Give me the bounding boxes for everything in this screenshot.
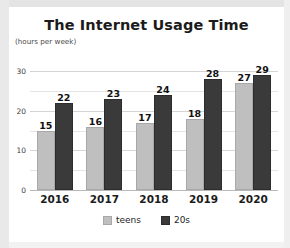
plot-area: 0102030 15221623172418282729 xyxy=(30,71,278,190)
bar-value-label: 16 xyxy=(89,117,102,127)
x-axis-labels: 20162017201820192020 xyxy=(30,193,278,205)
legend-label: teens xyxy=(116,215,141,225)
x-axis-label-2019: 2019 xyxy=(183,193,225,205)
legend-item-20s[interactable]: 20s xyxy=(161,215,190,225)
bar-20s-2016[interactable]: 22 xyxy=(55,103,73,190)
bar-chart: The Internet Usage Time (hours per week)… xyxy=(9,7,284,242)
bar-value-label: 15 xyxy=(39,121,52,131)
chart-page: The Internet Usage Time (hours per week)… xyxy=(0,0,290,248)
bar-slot: 15 xyxy=(37,71,55,190)
legend-swatch-20s xyxy=(161,216,170,225)
bar-value-label: 23 xyxy=(107,89,120,99)
axis-baseline: 0 xyxy=(30,190,278,191)
page-edge-top xyxy=(9,0,284,7)
bar-20s-2018[interactable]: 24 xyxy=(154,95,172,190)
bar-group: 1623 xyxy=(83,71,125,190)
y-axis-tick-label: 20 xyxy=(16,106,26,115)
bar-group: 1724 xyxy=(133,71,175,190)
legend-label: 20s xyxy=(174,215,190,225)
bar-slot: 28 xyxy=(204,71,222,190)
bar-teens-2018[interactable]: 17 xyxy=(136,123,154,190)
bar-value-label: 22 xyxy=(57,93,70,103)
bar-slot: 23 xyxy=(104,71,122,190)
bar-group: 1828 xyxy=(183,71,225,190)
x-axis-label-2017: 2017 xyxy=(83,193,125,205)
bar-group: 2729 xyxy=(232,71,274,190)
bar-group: 1522 xyxy=(34,71,76,190)
bar-teens-2019[interactable]: 18 xyxy=(186,119,204,190)
chart-title: The Internet Usage Time xyxy=(9,17,284,33)
bar-value-label: 28 xyxy=(206,69,219,79)
bar-20s-2017[interactable]: 23 xyxy=(104,99,122,190)
bar-value-label: 24 xyxy=(156,85,169,95)
bar-teens-2020[interactable]: 27 xyxy=(235,83,253,190)
bar-slot: 17 xyxy=(136,71,154,190)
legend-item-teens[interactable]: teens xyxy=(103,215,141,225)
x-axis-label-2016: 2016 xyxy=(34,193,76,205)
bar-teens-2016[interactable]: 15 xyxy=(37,131,55,191)
bar-teens-2017[interactable]: 16 xyxy=(86,127,104,190)
x-axis-label-2018: 2018 xyxy=(133,193,175,205)
bar-slot: 22 xyxy=(55,71,73,190)
y-axis-tick-label: 0 xyxy=(21,186,26,195)
bar-slot: 24 xyxy=(154,71,172,190)
bar-slot: 27 xyxy=(235,71,253,190)
bar-20s-2019[interactable]: 28 xyxy=(204,79,222,190)
page-edge-bottom xyxy=(9,242,284,248)
chart-subtitle: (hours per week) xyxy=(15,37,76,46)
legend-swatch-teens xyxy=(103,216,112,225)
page-edge-right xyxy=(284,0,290,248)
bar-groups: 15221623172418282729 xyxy=(30,71,278,190)
bar-slot: 18 xyxy=(186,71,204,190)
bar-value-label: 17 xyxy=(138,113,151,123)
bar-value-label: 29 xyxy=(256,65,269,75)
page-edge-left xyxy=(0,0,9,248)
y-axis-tick-label: 30 xyxy=(16,67,26,76)
bar-value-label: 27 xyxy=(238,73,251,83)
bar-20s-2020[interactable]: 29 xyxy=(253,75,271,190)
bar-value-label: 18 xyxy=(188,109,201,119)
y-axis-tick-label: 10 xyxy=(16,146,26,155)
x-axis-label-2020: 2020 xyxy=(232,193,274,205)
bar-slot: 16 xyxy=(86,71,104,190)
chart-legend: teens20s xyxy=(9,215,284,225)
bar-slot: 29 xyxy=(253,71,271,190)
